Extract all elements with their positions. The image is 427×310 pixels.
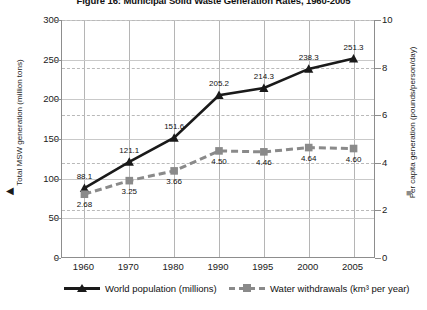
x-axis-tick-label: 1970 bbox=[103, 261, 153, 272]
data-point-label: 205.2 bbox=[209, 79, 229, 88]
chart-figure: Figure 16: Municipal Solid Waste Generat… bbox=[0, 0, 427, 310]
left-axis-series-marker-icon: ◀ bbox=[6, 186, 14, 196]
x-axis-tick-label: 1990 bbox=[193, 261, 243, 272]
x-axis-tick-label: 1960 bbox=[58, 261, 108, 272]
data-point-marker bbox=[125, 177, 133, 185]
data-point-marker bbox=[350, 145, 358, 153]
chart-title: Figure 16: Municipal Solid Waste Generat… bbox=[0, 0, 427, 6]
series-line bbox=[84, 59, 353, 189]
data-point-label: 4.46 bbox=[256, 158, 272, 167]
right-axis-tick-label: 10 bbox=[382, 14, 412, 25]
legend-item-water-withdrawals: Water withdrawals (km³ per year) bbox=[229, 283, 410, 294]
x-axis-tick-label: 2005 bbox=[328, 261, 378, 272]
data-point-marker bbox=[215, 147, 223, 155]
legend-swatch-dashed-square-icon bbox=[229, 283, 265, 294]
x-axis-tick-label: 2000 bbox=[283, 261, 333, 272]
left-axis-tick-label: 200 bbox=[19, 93, 59, 104]
right-axis-tick-label: 6 bbox=[382, 109, 412, 120]
data-point-label: 3.25 bbox=[121, 187, 137, 196]
legend-item-world-population: World population (millions) bbox=[64, 283, 217, 294]
right-axis-tick-label: 4 bbox=[382, 157, 412, 168]
data-point-label: 2.68 bbox=[77, 200, 93, 209]
data-point-label: 4.50 bbox=[211, 157, 227, 166]
data-point-label: 3.66 bbox=[166, 177, 182, 186]
right-axis-tick-label: 2 bbox=[382, 204, 412, 215]
left-axis-tick-mark bbox=[55, 258, 61, 259]
right-axis-tick-mark bbox=[375, 258, 381, 259]
data-point-label: 121.1 bbox=[119, 146, 139, 155]
right-axis-series-marker-icon: ■ bbox=[406, 189, 411, 198]
data-point-label: 4.64 bbox=[301, 154, 317, 163]
data-point-marker bbox=[81, 190, 89, 198]
left-axis-tick-label: 50 bbox=[19, 212, 59, 223]
data-point-label: 251.3 bbox=[344, 43, 364, 52]
left-axis-tick-label: 100 bbox=[19, 173, 59, 184]
x-axis-tick-label: 1980 bbox=[148, 261, 198, 272]
x-axis-tick-label: 1995 bbox=[238, 261, 288, 272]
data-point-label: 151.6 bbox=[164, 122, 184, 131]
left-axis-tick-label: 300 bbox=[19, 14, 59, 25]
legend-label-1: Water withdrawals (km³ per year) bbox=[270, 283, 410, 294]
data-point-label: 88.1 bbox=[77, 172, 93, 181]
data-point-label: 4.60 bbox=[346, 155, 362, 164]
left-axis-tick-label: 150 bbox=[19, 133, 59, 144]
legend-label-0: World population (millions) bbox=[105, 283, 217, 294]
legend-swatch-solid-triangle-icon bbox=[64, 283, 100, 294]
data-point-label: 214.3 bbox=[254, 72, 274, 81]
series-layer bbox=[62, 20, 376, 258]
right-axis-tick-label: 0 bbox=[382, 252, 412, 263]
plot-area: 88.1121.1151.6205.2214.3238.3251.32.683.… bbox=[61, 20, 375, 258]
chart-legend: World population (millions) Water withdr… bbox=[61, 283, 375, 301]
left-axis-tick-label: 250 bbox=[19, 54, 59, 65]
data-point-marker bbox=[305, 144, 313, 152]
data-point-marker bbox=[260, 148, 268, 156]
data-point-marker bbox=[170, 167, 178, 175]
data-point-label: 238.3 bbox=[299, 53, 319, 62]
left-axis-tick-label: 0 bbox=[19, 252, 59, 263]
right-axis-tick-label: 8 bbox=[382, 62, 412, 73]
